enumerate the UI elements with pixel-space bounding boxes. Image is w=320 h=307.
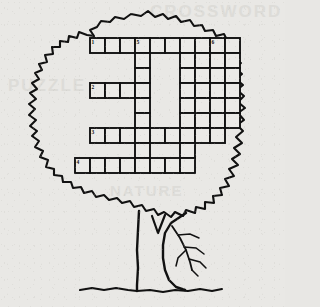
crossword-cell[interactable] xyxy=(180,53,195,68)
crossword-cell-box[interactable] xyxy=(135,68,150,83)
crossword-cell[interactable]: 1 xyxy=(90,38,105,53)
crossword-cell-box[interactable] xyxy=(210,128,225,143)
crossword-cell[interactable] xyxy=(120,83,135,98)
crossword-cell[interactable] xyxy=(210,53,225,68)
crossword-cell-box[interactable] xyxy=(105,38,120,53)
crossword-cell-box[interactable] xyxy=(210,68,225,83)
crossword-cell-box[interactable] xyxy=(135,98,150,113)
crossword-cell-box[interactable] xyxy=(195,68,210,83)
crossword-cell-box[interactable] xyxy=(225,38,240,53)
crossword-cell[interactable] xyxy=(120,128,135,143)
crossword-cell[interactable] xyxy=(225,98,240,113)
crossword-cell-box[interactable] xyxy=(225,83,240,98)
crossword-cell[interactable] xyxy=(180,143,195,158)
crossword-cell-box[interactable] xyxy=(210,53,225,68)
crossword-cell[interactable] xyxy=(195,68,210,83)
crossword-cell-box[interactable] xyxy=(225,53,240,68)
crossword-cell[interactable] xyxy=(120,38,135,53)
crossword-cell-box[interactable] xyxy=(120,128,135,143)
crossword-cell-box[interactable] xyxy=(180,83,195,98)
crossword-grid-layer[interactable]: 156234 xyxy=(75,38,240,173)
crossword-cell[interactable] xyxy=(135,53,150,68)
crossword-cell[interactable] xyxy=(150,38,165,53)
crossword-cell[interactable] xyxy=(225,38,240,53)
crossword-cell[interactable] xyxy=(195,38,210,53)
crossword-cell[interactable]: 2 xyxy=(90,83,105,98)
crossword-cell-box[interactable] xyxy=(165,158,180,173)
crossword-cell-box[interactable] xyxy=(105,128,120,143)
crossword-cell[interactable] xyxy=(135,68,150,83)
crossword-cell[interactable] xyxy=(105,158,120,173)
crossword-cell-box[interactable] xyxy=(150,128,165,143)
crossword-cell[interactable] xyxy=(180,158,195,173)
crossword-cell[interactable] xyxy=(180,68,195,83)
crossword-cell[interactable] xyxy=(150,158,165,173)
crossword-cell-box[interactable] xyxy=(135,113,150,128)
crossword-cell-box[interactable] xyxy=(120,38,135,53)
crossword-cell-box[interactable] xyxy=(120,83,135,98)
crossword-cell[interactable] xyxy=(210,83,225,98)
crossword-cell-box[interactable] xyxy=(105,158,120,173)
crossword-cell[interactable] xyxy=(180,83,195,98)
crossword-cell[interactable] xyxy=(135,128,150,143)
crossword-cell-box[interactable] xyxy=(225,68,240,83)
crossword-cell[interactable] xyxy=(195,113,210,128)
crossword-cell-box[interactable] xyxy=(180,38,195,53)
crossword-cell-box[interactable] xyxy=(165,38,180,53)
crossword-cell[interactable]: 3 xyxy=(90,128,105,143)
crossword-cell[interactable] xyxy=(165,128,180,143)
crossword-cell[interactable] xyxy=(135,98,150,113)
crossword-cell[interactable] xyxy=(195,98,210,113)
crossword-cell[interactable] xyxy=(120,158,135,173)
crossword-cell-box[interactable] xyxy=(195,83,210,98)
crossword-cell[interactable] xyxy=(225,68,240,83)
crossword-cell-box[interactable] xyxy=(195,53,210,68)
crossword-cell[interactable] xyxy=(165,38,180,53)
crossword-cell-box[interactable] xyxy=(210,113,225,128)
crossword-cell[interactable] xyxy=(195,83,210,98)
crossword-cell-box[interactable] xyxy=(195,128,210,143)
crossword-cell[interactable] xyxy=(225,83,240,98)
crossword-cell[interactable] xyxy=(210,128,225,143)
crossword-cell-box[interactable] xyxy=(210,83,225,98)
crossword-cell-box[interactable] xyxy=(165,128,180,143)
crossword-cell-box[interactable] xyxy=(150,158,165,173)
crossword-cell-box[interactable] xyxy=(180,68,195,83)
crossword-cell-box[interactable] xyxy=(180,98,195,113)
crossword-cell[interactable] xyxy=(225,113,240,128)
crossword-cell-box[interactable] xyxy=(150,38,165,53)
crossword-cell-box[interactable] xyxy=(90,158,105,173)
crossword-cell-box[interactable] xyxy=(225,113,240,128)
crossword-cell[interactable] xyxy=(105,38,120,53)
crossword-cell-box[interactable] xyxy=(180,128,195,143)
crossword-cell[interactable] xyxy=(165,158,180,173)
crossword-cell-box[interactable] xyxy=(195,113,210,128)
crossword-cell-box[interactable] xyxy=(120,158,135,173)
crossword-cell[interactable] xyxy=(180,128,195,143)
crossword-cell[interactable] xyxy=(180,113,195,128)
crossword-cell-box[interactable] xyxy=(135,158,150,173)
crossword-cell-box[interactable] xyxy=(225,98,240,113)
crossword-cell[interactable] xyxy=(105,83,120,98)
crossword-cell-box[interactable] xyxy=(135,143,150,158)
crossword-cell[interactable]: 6 xyxy=(210,38,225,53)
crossword-cell-box[interactable] xyxy=(180,113,195,128)
crossword-cell[interactable] xyxy=(210,68,225,83)
crossword-cell-box[interactable] xyxy=(195,98,210,113)
crossword-cell[interactable] xyxy=(135,143,150,158)
crossword-cell[interactable] xyxy=(90,158,105,173)
crossword-cell[interactable]: 4 xyxy=(75,158,90,173)
crossword-cell-box[interactable] xyxy=(135,53,150,68)
crossword-cell[interactable] xyxy=(150,128,165,143)
crossword-cell-box[interactable] xyxy=(105,83,120,98)
crossword-cell-box[interactable] xyxy=(180,143,195,158)
crossword-cell-box[interactable] xyxy=(135,128,150,143)
crossword-cell-box[interactable] xyxy=(195,38,210,53)
crossword-cell[interactable] xyxy=(195,128,210,143)
crossword-cell[interactable] xyxy=(180,38,195,53)
crossword-cell[interactable] xyxy=(210,113,225,128)
crossword-cell[interactable] xyxy=(105,128,120,143)
crossword-cell[interactable] xyxy=(195,53,210,68)
crossword-cell-box[interactable] xyxy=(180,53,195,68)
crossword-cell-box[interactable] xyxy=(135,83,150,98)
